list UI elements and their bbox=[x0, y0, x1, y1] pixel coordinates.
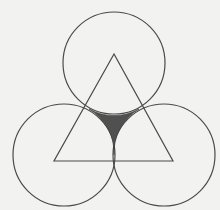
circles-group bbox=[13, 12, 215, 206]
circle-left bbox=[13, 104, 115, 206]
circle-top bbox=[63, 12, 165, 114]
circle-right bbox=[113, 104, 215, 206]
geometry-diagram bbox=[0, 0, 220, 210]
